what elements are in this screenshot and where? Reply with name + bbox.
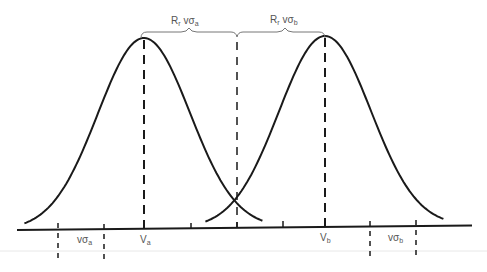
brace-label-left: Rrvσa xyxy=(171,15,199,27)
label-sigma-b: vσb xyxy=(388,232,403,244)
label-sigma-a: vσa xyxy=(77,234,92,246)
brace-label-right: Rrvσb xyxy=(270,14,298,26)
resolution-brace xyxy=(141,28,325,38)
diagram-canvas: Rrvσa Rrvσb vσa Va Vb vσb xyxy=(0,0,487,272)
diagram-svg: Rrvσa Rrvσb vσa Va Vb vσb xyxy=(0,0,487,272)
baseline-axis xyxy=(17,226,472,231)
label-mean-a: Va xyxy=(140,234,151,246)
label-mean-b: Vb xyxy=(320,232,331,244)
